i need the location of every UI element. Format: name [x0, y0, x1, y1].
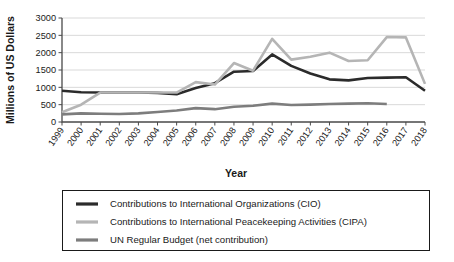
x-tick-label: 2009: [237, 125, 257, 147]
x-tick-label: 2011: [276, 125, 296, 147]
y-axis-title: Millions of US Dollars: [4, 16, 16, 124]
x-tick-label: 2013: [314, 125, 334, 147]
y-tick-label: 3000: [36, 13, 56, 23]
chart-canvas: 050010001500200025003000 199920002001200…: [0, 0, 454, 262]
x-axis-tick-labels: 1999200020012002200320042005200620072008…: [46, 125, 429, 147]
y-axis-tick-labels: 050010001500200025003000: [36, 13, 56, 127]
y-tick-label: 1500: [36, 65, 56, 75]
x-tick-label: 2006: [180, 125, 200, 147]
legend-label-3: UN Regular Budget (net contribution): [110, 234, 268, 245]
x-tick-label: 2012: [295, 125, 315, 147]
x-tick-label: 2005: [161, 125, 181, 147]
x-tick-label: 2007: [199, 125, 219, 147]
series-line-cipa: [62, 37, 425, 112]
x-tick-label: 2002: [104, 125, 124, 147]
x-tick-label: 2010: [256, 125, 276, 147]
x-tick-label: 2008: [218, 125, 238, 147]
x-tick-label: 2016: [371, 125, 391, 147]
x-tick-label: 2014: [333, 125, 353, 147]
x-tick-label: 2001: [84, 125, 104, 147]
series-line-cio: [62, 54, 425, 94]
x-tick-label: 2018: [409, 125, 429, 147]
data-series-group: [62, 37, 425, 114]
y-tick-label: 2000: [36, 48, 56, 58]
x-tick-label: 1999: [46, 125, 66, 147]
y-tick-label: 0: [51, 117, 56, 127]
y-tick-label: 1000: [36, 83, 56, 93]
legend-label-2: Contributions to International Peacekeep…: [110, 216, 367, 227]
legend-label-1: Contributions to International Organizat…: [110, 198, 321, 209]
x-tick-label: 2004: [142, 125, 162, 147]
x-tick-label: 2015: [352, 125, 372, 147]
line-chart-figure: 050010001500200025003000 199920002001200…: [0, 0, 454, 262]
x-tick-label: 2000: [65, 125, 85, 147]
y-tick-label: 2500: [36, 31, 56, 41]
y-tick-label: 500: [41, 100, 56, 110]
x-axis-title: Year: [225, 167, 247, 179]
x-tick-label: 2017: [390, 125, 410, 147]
x-tick-label: 2003: [123, 125, 143, 147]
